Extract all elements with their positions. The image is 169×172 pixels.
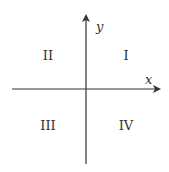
quadrant-label-iii: III	[40, 118, 55, 133]
coordinate-plane-diagram: y x I II III IV	[0, 0, 169, 172]
quadrant-label-ii: II	[43, 48, 53, 63]
quadrant-label-i: I	[123, 48, 128, 63]
quadrant-label-iv: IV	[119, 118, 134, 133]
x-axis-label: x	[145, 72, 153, 87]
y-axis-label: y	[95, 19, 104, 34]
